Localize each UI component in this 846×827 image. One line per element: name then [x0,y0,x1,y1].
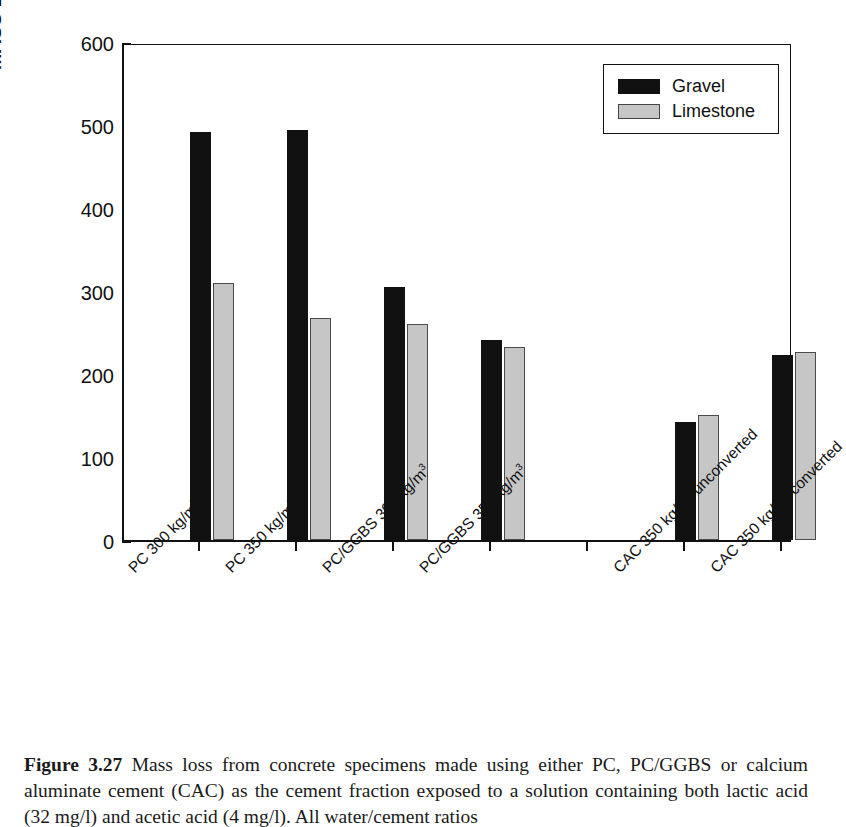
legend-swatch-gravel [618,79,660,94]
bar-limestone-ggbs350 [504,347,525,540]
plot-area: Gravel Limestone [122,44,791,542]
bar-limestone-pc300 [213,283,234,540]
x-tick-mark-3 [392,542,394,551]
bar-limestone-cac-converted [795,352,816,540]
x-tick-mark-7 [780,542,782,551]
bar-gravel-pc300 [190,132,211,540]
y-tick-label-100: 100 [60,448,114,471]
y-axis-title: MASS LOSS PER UNIT AREA, mg/cm2 [0,0,6,70]
y-axis-title-text: MASS LOSS PER UNIT AREA, mg/cm [0,0,5,70]
y-tick-label-200: 200 [60,365,114,388]
bar-limestone-pc350 [310,318,331,540]
legend-row-gravel: Gravel [618,74,778,99]
figure-caption-label: Figure 3.27 [24,754,122,775]
x-tick-mark-6 [683,542,685,551]
y-tick-label-0: 0 [60,531,114,554]
bar-gravel-pc350 [287,130,308,540]
x-tick-mark-1 [198,542,200,551]
legend-label-gravel: Gravel [672,76,725,97]
bar-limestone-ggbs300 [407,324,428,540]
y-tick-label-400: 400 [60,199,114,222]
x-tick-mark-2 [295,542,297,551]
figure-caption-text: Mass loss from concrete specimens made u… [24,754,808,827]
legend-row-limestone: Limestone [618,99,778,124]
x-tick-mark-5 [586,542,588,551]
y-tick-label-300: 300 [60,282,114,305]
figure-caption: Figure 3.27 Mass loss from concrete spec… [24,752,808,827]
y-tick-label-600: 600 [60,33,114,56]
legend-label-limestone: Limestone [672,101,755,122]
legend-swatch-limestone [618,104,660,119]
legend: Gravel Limestone [603,64,779,134]
y-tick-label-500: 500 [60,116,114,139]
x-tick-mark-4 [489,542,491,551]
